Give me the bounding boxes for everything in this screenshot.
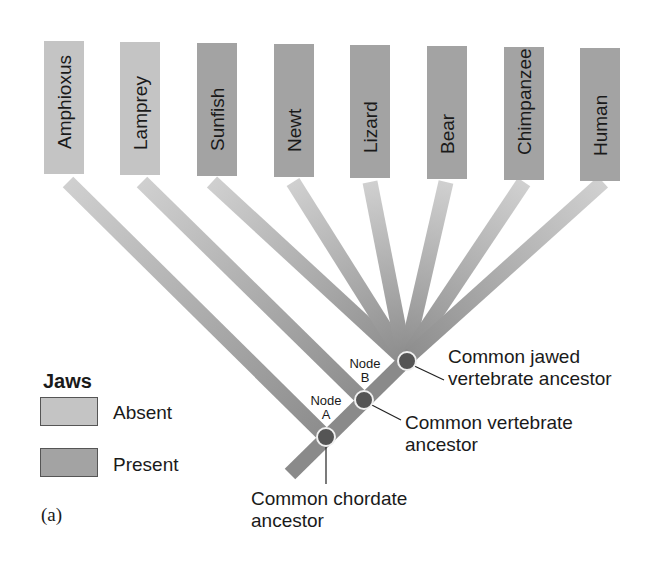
taxon-sunfish: Sunfish [197,43,237,176]
legend-swatch-absent [40,397,98,426]
annotation-common-vertebrate-ancestor: Common vertebrate ancestor [405,412,573,456]
node-b-marker [355,391,373,409]
legend-label-present: Present [113,454,178,476]
taxon-label: Lizard [361,101,380,153]
taxon-chimpanzee: Chimpanzee [504,47,544,180]
node-b-label: Node B [345,357,385,385]
taxon-label: Chimpanzee [515,48,534,155]
branch-amphioxus [68,182,326,437]
annotation-common-jawed-vertebrate-ancestor: Common jawed vertebrate ancestor [448,346,612,390]
taxon-amphioxus: Amphioxus [44,41,84,174]
taxon-lizard: Lizard [350,45,390,178]
annotation-common-chordate-ancestor: Common chordate ancestor [251,488,407,532]
node-a-label: Node A [306,394,346,422]
legend-title: Jaws [43,370,92,393]
legend-swatch-present [40,448,98,477]
taxon-bear: Bear [427,46,467,179]
taxon-label: Newt [285,109,304,152]
taxon-newt: Newt [274,44,314,177]
taxon-label: Sunfish [208,88,227,151]
node-c-marker [398,352,416,370]
taxon-lamprey: Lamprey [120,42,160,175]
taxon-label: Human [591,95,610,156]
figure-label: (a) [41,504,62,526]
legend-label-absent: Absent [113,402,172,424]
taxon-label: Lamprey [131,76,150,150]
cladogram-tree [0,0,668,572]
node-a-marker [317,428,335,446]
taxon-label: Amphioxus [55,55,74,149]
taxon-human: Human [580,48,620,181]
taxon-label: Bear [438,114,457,154]
